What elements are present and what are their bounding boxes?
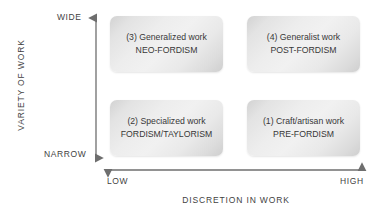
vertical-axis-arrow (88, 10, 104, 166)
quadrant-label-secondary: FORDISM/TAYLORISM (121, 128, 212, 141)
quadrant-label-secondary: POST-FORDISM (270, 44, 336, 57)
quadrant-box-post-fordism: (4) Generalist work POST-FORDISM (247, 16, 360, 72)
quadrant-label-primary: (2) Specialized work (127, 115, 205, 128)
y-axis-high-label: WIDE (57, 12, 82, 22)
quadrant-label-secondary: PRE-FORDISM (273, 128, 334, 141)
quadrant-label-primary: (1) Craft/artisan work (263, 115, 344, 128)
x-axis-low-label: LOW (107, 176, 128, 186)
work-organization-matrix-diagram: WIDE NARROW LOW HIGH VARIETY OF WORK DIS… (0, 0, 387, 220)
x-axis-high-label: HIGH (340, 176, 364, 186)
quadrant-label-secondary: NEO-FORDISM (136, 44, 198, 57)
quadrant-label-primary: (3) Generalized work (126, 31, 207, 44)
y-axis-title: VARIETY OF WORK (14, 10, 28, 160)
quadrant-box-pre-fordism: (1) Craft/artisan work PRE-FORDISM (247, 100, 360, 156)
quadrant-box-neo-fordism: (3) Generalized work NEO-FORDISM (110, 16, 223, 72)
horizontal-axis-arrow (100, 162, 370, 178)
y-axis-low-label: NARROW (44, 149, 86, 159)
x-axis-title: DISCRETION IN WORK (107, 195, 365, 205)
quadrant-box-fordism-taylorism: (2) Specialized work FORDISM/TAYLORISM (110, 100, 223, 156)
quadrant-label-primary: (4) Generalist work (267, 31, 340, 44)
